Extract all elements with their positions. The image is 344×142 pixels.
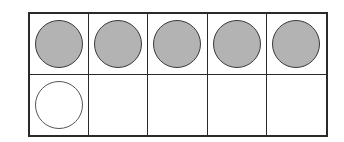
frame-cell [148, 75, 207, 136]
frame-cell [30, 14, 89, 75]
filled-counter-icon [94, 20, 142, 68]
filled-counter-icon [213, 20, 261, 68]
frame-cell [148, 14, 207, 75]
frame-cell [208, 14, 267, 75]
filled-counter-icon [35, 20, 83, 68]
frame-cell [30, 75, 89, 136]
filled-counter-icon [153, 20, 201, 68]
filled-counter-icon [272, 20, 320, 68]
empty-counter-icon [35, 81, 83, 129]
ten-frame [28, 12, 328, 137]
frame-cell [208, 75, 267, 136]
frame-cell [267, 75, 326, 136]
frame-cell [267, 14, 326, 75]
frame-cell [89, 14, 148, 75]
frame-cell [89, 75, 148, 136]
